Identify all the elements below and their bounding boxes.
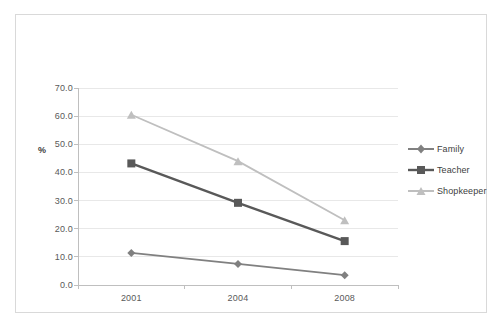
legend-marker-teacher: [408, 164, 434, 176]
legend-item-shopkeeper[interactable]: Shopkeeper: [408, 180, 486, 201]
y-tick-label: 20.0: [40, 224, 73, 234]
data-point-teacher[interactable]: [341, 237, 349, 245]
x-tick-label: 2004: [228, 293, 249, 303]
data-point-shopkeeper[interactable]: [234, 157, 243, 165]
data-point-shopkeeper[interactable]: [127, 111, 136, 119]
data-point-teacher[interactable]: [234, 199, 242, 207]
legend-item-teacher[interactable]: Teacher: [408, 159, 486, 180]
y-tick-label: 70.0: [40, 83, 73, 93]
data-point-teacher[interactable]: [127, 159, 135, 167]
y-tick-label: 60.0: [40, 111, 73, 121]
data-point-family[interactable]: [234, 260, 242, 268]
legend-marker-family: [408, 143, 434, 155]
legend-item-family[interactable]: Family: [408, 138, 486, 159]
y-tick-label: 50.0: [40, 139, 73, 149]
chart-legend: Family Teacher Shopkeeper: [408, 138, 486, 201]
data-point-shopkeeper[interactable]: [340, 216, 349, 224]
x-tick-label: 2008: [334, 293, 355, 303]
legend-marker-shopkeeper: [408, 185, 434, 197]
data-point-family[interactable]: [127, 249, 135, 257]
y-tick-label: 10.0: [40, 252, 73, 262]
y-tick-label: 30.0: [40, 196, 73, 206]
legend-label-family: Family: [437, 144, 464, 154]
x-tick-label: 2001: [121, 293, 142, 303]
y-tick-label: 40.0: [40, 167, 73, 177]
y-tick-label: 0.0: [40, 280, 73, 290]
legend-label-shopkeeper: Shopkeeper: [437, 186, 487, 196]
legend-label-teacher: Teacher: [437, 165, 470, 175]
data-point-family[interactable]: [341, 271, 349, 279]
